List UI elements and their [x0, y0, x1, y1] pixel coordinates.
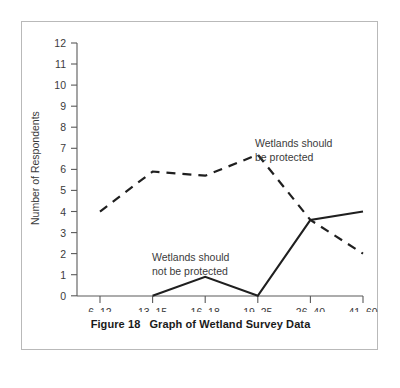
y-tick-label-0: 0	[60, 290, 66, 302]
line-chart-svg: 12 11 10 9 8 7 6 5 4 3	[22, 22, 379, 312]
series-line-protected	[100, 155, 363, 254]
y-tick-label-1: 1	[60, 269, 66, 281]
y-tick-label-5: 5	[60, 184, 66, 196]
x-tick-label-5: 41–60	[348, 306, 377, 312]
y-tick-label-12: 12	[54, 37, 66, 49]
y-tick-label-2: 2	[60, 248, 66, 260]
y-tick-label-8: 8	[60, 121, 66, 133]
y-tick-label-11: 11	[55, 58, 66, 70]
figure-caption-title: Graph of Wetland Survey Data	[149, 318, 310, 330]
y-tick-label-6: 6	[60, 163, 66, 175]
x-tick-label-0: 6–12	[88, 306, 112, 312]
y-tick-label-7: 7	[60, 142, 66, 154]
figure-card: 12 11 10 9 8 7 6 5 4 3	[21, 21, 378, 350]
protected-annotation-line2: be protected	[255, 151, 314, 163]
not-protected-annotation-line1: Wetlands should	[152, 251, 230, 263]
y-tick-label-4: 4	[60, 206, 66, 218]
protected-annotation: Wetlands should be protected	[255, 137, 333, 163]
figure-caption: Figure 18Graph of Wetland Survey Data	[22, 318, 379, 330]
y-axis-ticks: 12 11 10 9 8 7 6 5 4 3	[54, 37, 77, 302]
y-tick-label-10: 10	[54, 79, 66, 91]
x-tick-label-1: 13–15	[138, 306, 167, 312]
chart-plot-area: 12 11 10 9 8 7 6 5 4 3	[22, 22, 379, 312]
figure-caption-label: Figure 18	[91, 318, 141, 330]
x-tick-label-4: 26–40	[296, 306, 325, 312]
y-axis-title: Number of Respondents	[29, 111, 41, 225]
y-tick-label-9: 9	[60, 100, 66, 112]
not-protected-annotation-line2: not be protected	[152, 265, 228, 277]
x-tick-label-3: 19–25	[243, 306, 272, 312]
x-axis-ticks: 6–12 13–15 16–18 19–25 26–40 41–60	[88, 296, 377, 312]
protected-annotation-line1: Wetlands should	[255, 137, 333, 149]
not-protected-annotation: Wetlands should not be protected	[152, 251, 230, 277]
x-tick-label-2: 16–18	[191, 306, 220, 312]
y-tick-label-3: 3	[60, 227, 66, 239]
